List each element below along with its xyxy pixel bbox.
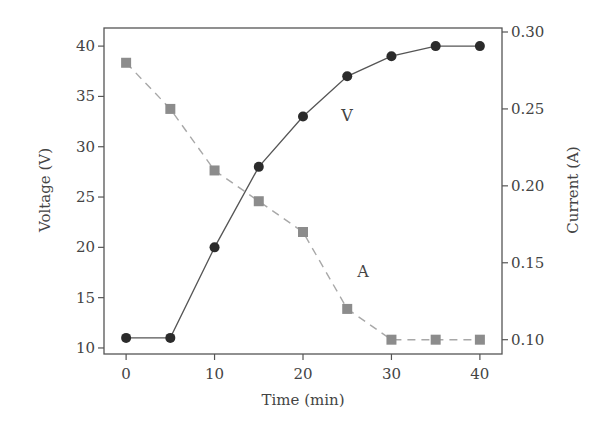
right-y-tick-label: 0.25 <box>511 100 544 118</box>
data-point-circle <box>431 41 441 51</box>
left-y-tick-label: 30 <box>76 138 95 156</box>
data-point-circle <box>342 71 352 81</box>
x-axis-ticks: 010203040 <box>121 354 489 383</box>
data-point-square <box>298 227 308 237</box>
series-label-voltage: V <box>340 106 353 125</box>
data-point-square <box>342 304 352 314</box>
right-y-tick-label: 0.20 <box>511 177 544 195</box>
right-y-tick-label: 0.10 <box>511 331 544 349</box>
data-point-circle <box>475 41 485 51</box>
data-point-circle <box>210 242 220 252</box>
x-axis-title: Time (min) <box>261 391 344 409</box>
data-point-circle <box>254 162 264 172</box>
plot-frame <box>104 28 502 354</box>
data-point-square <box>431 335 441 345</box>
left-y-tick-label: 35 <box>76 87 95 105</box>
data-point-square <box>475 335 485 345</box>
right-y-tick-label: 0.15 <box>511 254 544 272</box>
data-point-square <box>254 196 264 206</box>
x-tick-label: 10 <box>205 365 224 383</box>
left-y-axis-title: Voltage (V) <box>36 148 54 233</box>
series-label-current: A <box>356 262 369 281</box>
right-y-tick-label: 0.30 <box>511 23 544 41</box>
dual-axis-line-chart: 010203040 10152025303540 0.100.150.200.2… <box>0 0 610 426</box>
data-point-circle <box>386 51 396 61</box>
x-tick-label: 0 <box>121 365 131 383</box>
left-y-tick-label: 40 <box>76 37 95 55</box>
left-y-tick-label: 15 <box>76 289 95 307</box>
x-tick-label: 40 <box>470 365 489 383</box>
data-point-circle <box>298 112 308 122</box>
data-point-circle <box>165 333 175 343</box>
data-point-square <box>386 335 396 345</box>
data-point-circle <box>121 333 131 343</box>
data-point-square <box>210 165 220 175</box>
left-y-axis-ticks: 10152025303540 <box>76 37 104 357</box>
right-y-axis-title: Current (A) <box>564 146 582 233</box>
left-y-tick-label: 10 <box>76 339 95 357</box>
x-tick-label: 30 <box>382 365 401 383</box>
right-y-axis-ticks: 0.100.150.200.250.30 <box>502 23 544 349</box>
left-y-tick-label: 25 <box>76 188 95 206</box>
data-point-square <box>121 58 131 68</box>
x-tick-label: 20 <box>293 365 312 383</box>
left-y-tick-label: 20 <box>76 238 95 256</box>
data-point-square <box>165 104 175 114</box>
